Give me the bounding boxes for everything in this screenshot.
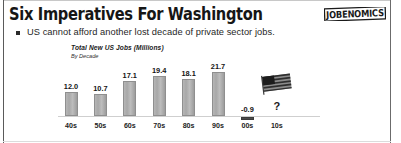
chart-plot-area: 12.040s10.750s17.160s19.470s18.180s21.79… bbox=[58, 44, 326, 138]
slide-border-left bbox=[3, 0, 4, 143]
bar-value-label-40s: 12.0 bbox=[57, 82, 85, 91]
slide-canvas: Six Imperatives For Washington US cannot… bbox=[0, 0, 401, 143]
bullet-list-item: US cannot afford another lost decade of … bbox=[16, 27, 275, 37]
bar-value-label-60s: 17.1 bbox=[116, 71, 144, 80]
category-label-80s: 80s bbox=[175, 122, 203, 130]
bar-60s bbox=[123, 81, 136, 116]
bar-70s bbox=[153, 76, 166, 116]
bar-90s bbox=[212, 72, 225, 116]
jobs-by-decade-bar-chart: Total New US Jobs (Millions) By Decade 1… bbox=[58, 44, 326, 138]
bar-80s bbox=[182, 79, 195, 116]
category-label-50s: 50s bbox=[86, 122, 114, 130]
us-flag-icon bbox=[261, 72, 295, 96]
category-label-70s: 70s bbox=[145, 122, 173, 130]
bar-value-label-50s: 10.7 bbox=[86, 84, 114, 93]
chart-baseline bbox=[58, 116, 320, 117]
slide-border-right bbox=[390, 0, 391, 143]
bar-value-label-70s: 19.4 bbox=[145, 66, 173, 75]
slide-title: Six Imperatives For Washington bbox=[9, 4, 263, 24]
bar-00s bbox=[241, 117, 254, 120]
bar-value-label-90s: 21.7 bbox=[204, 62, 232, 71]
bullet-text: US cannot afford another lost decade of … bbox=[27, 27, 275, 37]
jobenomics-logo: JOBENOMICS bbox=[324, 7, 386, 21]
svg-text:JOBENOMICS: JOBENOMICS bbox=[325, 8, 384, 21]
bar-50s bbox=[94, 94, 107, 116]
question-mark-annotation: ? bbox=[267, 100, 287, 112]
square-bullet-icon bbox=[16, 31, 20, 35]
bar-value-label-00s: -0.9 bbox=[233, 105, 261, 114]
category-label-90s: 90s bbox=[204, 122, 232, 130]
bar-40s bbox=[65, 92, 78, 117]
category-label-60s: 60s bbox=[116, 122, 144, 130]
slide-border-bottom bbox=[3, 141, 391, 142]
category-label-00s: 00s bbox=[233, 122, 261, 130]
slide-border-top bbox=[3, 0, 391, 1]
bar-value-label-80s: 18.1 bbox=[175, 69, 203, 78]
category-label-40s: 40s bbox=[57, 122, 85, 130]
category-label-10s: 10s bbox=[263, 122, 291, 130]
